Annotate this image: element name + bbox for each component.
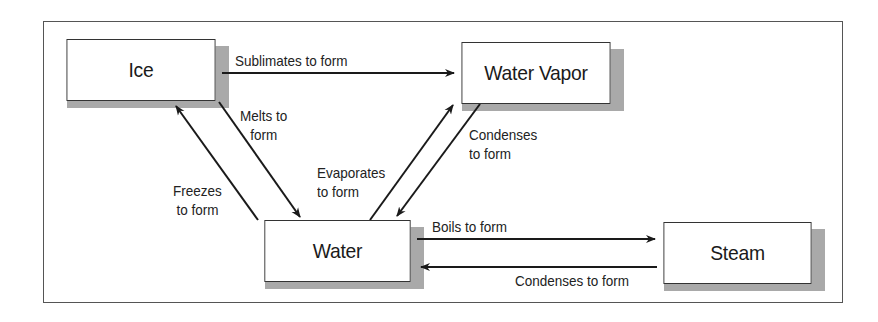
label-freezes: Freezes to form — [173, 181, 222, 219]
node-ice-label: Ice — [129, 58, 154, 82]
label-melts: Melts to form — [240, 106, 287, 144]
label-melts-line2: form — [240, 125, 287, 144]
label-evaporates-line1: Evaporates — [317, 163, 385, 182]
node-steam: Steam — [663, 222, 811, 284]
node-ice: Ice — [66, 39, 215, 101]
node-water-label: Water — [313, 239, 362, 263]
label-condenses-steam: Condenses to form — [515, 271, 629, 290]
label-sublimates: Sublimates to form — [235, 51, 348, 70]
node-water: Water — [264, 220, 410, 282]
node-water-vapor-label: Water Vapor — [484, 61, 587, 85]
node-steam-label: Steam — [710, 241, 764, 265]
label-condenses-vapor: Condenses to form — [469, 125, 537, 163]
label-boils: Boils to form — [432, 217, 507, 236]
label-condenses-vapor-line1: Condenses — [469, 125, 537, 144]
label-freezes-line2: to form — [173, 200, 222, 219]
label-melts-line1: Melts to — [240, 106, 287, 125]
label-freezes-line1: Freezes — [173, 181, 222, 200]
label-condenses-vapor-line2: to form — [469, 144, 537, 163]
label-evaporates: Evaporates to form — [317, 163, 385, 201]
node-water-vapor: Water Vapor — [461, 42, 610, 104]
label-evaporates-line2: to form — [317, 182, 385, 201]
arrow-vapor-to-water — [397, 104, 480, 216]
